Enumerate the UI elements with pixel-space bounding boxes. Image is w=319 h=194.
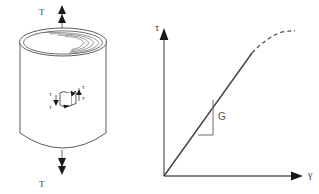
- x-axis-label: γ: [308, 170, 312, 180]
- y-axis-label: τ: [155, 23, 159, 33]
- slope-label-G: G: [218, 112, 226, 122]
- element-tau-label-top: τ: [82, 84, 85, 91]
- curve-plastic-dashed: [252, 31, 295, 53]
- curve-linear-elastic: [164, 53, 252, 176]
- element-tau-label-left: τ: [49, 91, 52, 98]
- y-axis-arrowhead: [160, 28, 169, 40]
- torque-arrowhead-bottom-lower: [58, 166, 66, 175]
- torque-label-bottom: T: [39, 180, 45, 189]
- torque-arrowhead-bottom-upper: [58, 158, 66, 167]
- graph-svg: [155, 0, 319, 194]
- x-axis-arrowhead: [291, 172, 303, 181]
- cylinder-svg: [0, 0, 155, 194]
- shear-stress-strain-graph: τ γ G: [155, 0, 319, 194]
- torque-label-top: T: [39, 8, 45, 17]
- element-front-face: [60, 93, 72, 107]
- torque-arrowhead-top-upper: [58, 5, 66, 14]
- element-tau-label-bottom: τ: [49, 104, 52, 111]
- element-tau-label-right: τ: [82, 95, 85, 102]
- figure-root: T T τ τ τ τ τ γ G: [0, 0, 319, 194]
- cylinder-bottom-arc: [20, 133, 106, 148]
- torsion-cylinder-diagram: T T τ τ τ τ: [0, 0, 155, 194]
- torque-arrowhead-top-lower: [58, 14, 66, 23]
- cylinder-rim-inner: [24, 31, 103, 54]
- element-shear-arrowhead-left: [53, 100, 59, 106]
